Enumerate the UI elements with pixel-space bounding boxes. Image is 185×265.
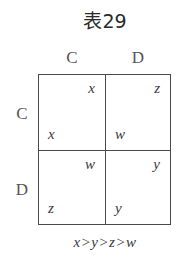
cell-c-d: z w <box>106 75 170 151</box>
column-label-d: D <box>128 49 148 66</box>
row-player-payoff: z <box>48 201 54 216</box>
cell-d-d: y y <box>106 151 170 224</box>
payoff-matrix: x x z w w z y y <box>38 74 171 225</box>
table-title: 表29 <box>0 6 185 33</box>
column-label-c: C <box>62 49 82 66</box>
cell-c-c: x x <box>39 75 106 151</box>
row-player-payoff: x <box>48 127 55 142</box>
column-player-payoff: y <box>153 157 160 172</box>
row-label-d: D <box>14 181 30 198</box>
row-player-payoff: w <box>115 127 125 142</box>
column-player-payoff: z <box>154 81 160 96</box>
row-label-c: C <box>14 105 30 122</box>
payoff-ordering-caption: x>y>z>w <box>0 234 185 251</box>
row-player-payoff: y <box>115 201 122 216</box>
column-player-payoff: x <box>88 81 95 96</box>
cell-d-c: w z <box>39 151 106 224</box>
column-player-payoff: w <box>85 157 95 172</box>
